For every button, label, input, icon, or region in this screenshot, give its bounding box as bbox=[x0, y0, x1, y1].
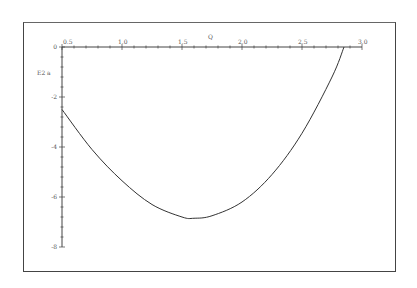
x-tick-label: 0.5 bbox=[63, 38, 73, 45]
y-axis-label: E2 a bbox=[37, 69, 51, 76]
y-tick-label: -8 bbox=[51, 243, 57, 250]
x-tick-label: 1.5 bbox=[178, 38, 188, 45]
x-tick-label: 2.5 bbox=[298, 38, 308, 45]
x-tick-label: 1.0 bbox=[118, 38, 128, 45]
x-tick-label: 3.0 bbox=[358, 38, 368, 45]
axis-labels: 0.51.01.52.02.53.00-2-4-6-8 bbox=[51, 38, 368, 250]
y-tick-label: -6 bbox=[51, 193, 57, 200]
y-tick-label: 0 bbox=[53, 43, 57, 50]
y-tick-label: -2 bbox=[51, 93, 57, 100]
data-curve bbox=[62, 47, 344, 219]
y-tick-label: -4 bbox=[51, 143, 57, 150]
x-axis-label: Q bbox=[208, 33, 213, 40]
x-tick-label: 2.0 bbox=[238, 38, 248, 45]
chart-svg: 0.51.01.52.02.53.00-2-4-6-8 Q E2 a bbox=[0, 0, 417, 288]
